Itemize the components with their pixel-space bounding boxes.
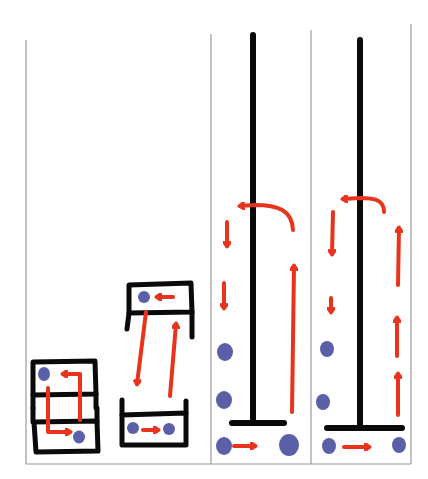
particle [73, 431, 85, 444]
arrow-down [137, 312, 146, 384]
diagram-canvas: Hand-drawn four-panel diagram: particles… [0, 0, 428, 479]
top-box-leg-left [127, 313, 129, 329]
particle [217, 343, 233, 361]
particle [279, 434, 299, 456]
particle [316, 394, 330, 410]
particle [392, 437, 406, 453]
panel-2 [122, 283, 192, 445]
lower-box [34, 421, 98, 452]
particle [138, 291, 150, 303]
particle [127, 422, 139, 434]
arrow-curve-over-rod [343, 198, 384, 212]
panel-4 [316, 40, 406, 454]
arrow-curve-over-rod [240, 205, 293, 230]
panel-1 [33, 361, 98, 452]
arrow-up [398, 228, 399, 285]
particle [216, 437, 232, 455]
arrow-up [170, 324, 176, 396]
panel-3 [216, 35, 299, 456]
particle [163, 423, 175, 435]
particle [38, 367, 50, 381]
separated-boxes [122, 283, 192, 445]
particle [322, 438, 336, 454]
arrow-up-left [63, 374, 80, 420]
diagram-svg [0, 0, 428, 479]
particle [320, 341, 334, 357]
arrow-up-long [292, 266, 294, 412]
particle [216, 391, 232, 409]
arrow-down [332, 212, 333, 254]
